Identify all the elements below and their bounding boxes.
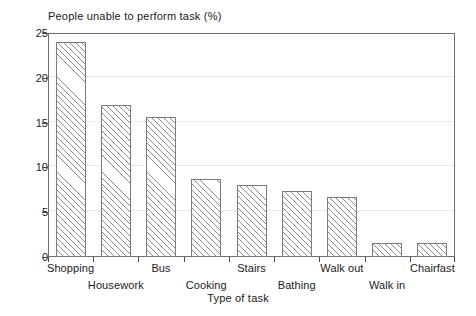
x-axis-category-label: Cooking <box>158 279 254 291</box>
bar <box>372 243 402 257</box>
bars-container <box>48 33 455 257</box>
x-axis-category-label: Shopping <box>23 262 119 274</box>
x-axis-category-label: Walk in <box>339 279 435 291</box>
x-axis-category-label: Walk out <box>294 262 390 274</box>
bar <box>146 117 176 257</box>
x-axis-category-label: Bus <box>113 262 209 274</box>
x-axis-title: Type of task <box>0 292 476 304</box>
bar <box>237 185 267 257</box>
bar <box>327 197 357 257</box>
x-axis-category-label: Stairs <box>204 262 300 274</box>
x-axis-category-label: Housework <box>68 279 164 291</box>
chart-title: People unable to perform task (%) <box>48 10 222 22</box>
bar <box>101 105 131 257</box>
x-axis-category-label: Chairfast <box>384 262 476 274</box>
bar <box>56 42 86 257</box>
bar <box>191 179 221 257</box>
bar <box>282 191 312 257</box>
bar-chart: People unable to perform task (%) 051015… <box>0 0 476 316</box>
bar <box>417 243 447 257</box>
x-axis-category-label: Bathing <box>249 279 345 291</box>
